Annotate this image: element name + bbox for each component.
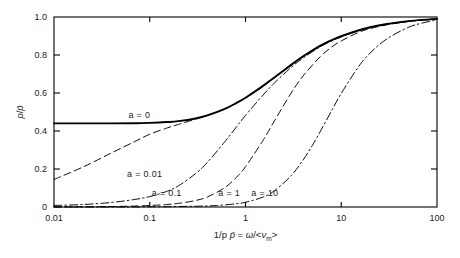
curves-layer bbox=[54, 19, 437, 207]
x-tick-label: 0.1 bbox=[143, 213, 156, 223]
y-axis-title: p/p̄ bbox=[14, 105, 25, 120]
y-tick-label: 1.0 bbox=[34, 12, 47, 22]
series-label-3: a = 1 bbox=[218, 188, 240, 198]
series-line-3 bbox=[54, 19, 437, 207]
series-label-1: a = 0.01 bbox=[127, 169, 162, 179]
series-label-4: a = 10 bbox=[251, 188, 278, 198]
series-line-4 bbox=[54, 20, 437, 207]
y-tick-label: 0.2 bbox=[34, 164, 47, 174]
x-tick-label: 10 bbox=[336, 213, 346, 223]
chart-figure: 0.010.111010000.20.40.60.81.0 a = 0a = 0… bbox=[0, 0, 460, 258]
y-tick-label: 0 bbox=[42, 202, 47, 212]
y-tick-label: 0.8 bbox=[34, 50, 47, 60]
x-tick-label: 100 bbox=[429, 213, 444, 223]
x-tick-label: 0.01 bbox=[45, 213, 63, 223]
y-tick-label: 0.6 bbox=[34, 88, 47, 98]
series-label-2: a = 0.1 bbox=[152, 188, 182, 198]
series-line-2 bbox=[54, 19, 437, 206]
plot-frame bbox=[54, 17, 437, 207]
y-tick-label: 0.4 bbox=[34, 126, 47, 136]
series-line-1 bbox=[54, 19, 437, 180]
line-chart: 0.010.111010000.20.40.60.81.0 a = 0a = 0… bbox=[0, 0, 460, 258]
series-line-0 bbox=[54, 19, 437, 124]
x-tick-label: 1 bbox=[243, 213, 248, 223]
x-axis-title: 1/p p̄ = ω/<νm> bbox=[214, 229, 278, 242]
series-label-0: a = 0 bbox=[129, 110, 151, 120]
